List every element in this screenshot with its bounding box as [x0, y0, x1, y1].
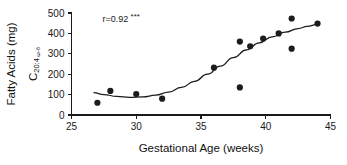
data-point-0-8 [260, 35, 266, 41]
data-point-0-0 [94, 100, 100, 106]
data-point-0-10 [289, 15, 295, 21]
x-axis-title: Gestational Age (weeks) [139, 142, 264, 154]
x-axis-tick-labels: 2530354045 [66, 121, 337, 132]
y-axis-title-compound-letter: C [27, 73, 39, 81]
y-tick-label-400: 400 [48, 28, 65, 39]
data-point-0-6 [237, 84, 243, 90]
y-tick-label-500: 500 [48, 8, 65, 19]
y-axis-title-compound: C20:4ω-6 [27, 47, 41, 81]
x-tick-label-40: 40 [260, 121, 272, 132]
x-tick-label-25: 25 [66, 121, 78, 132]
y-tick-label-100: 100 [48, 89, 65, 100]
data-point-0-12 [314, 21, 320, 27]
data-point-0-1 [107, 88, 113, 94]
x-tick-label-45: 45 [325, 121, 337, 132]
correlation-annotation: r=0.92 *** [103, 12, 140, 24]
data-point-0-3 [159, 96, 165, 102]
y-axis-tick-labels: 0100200300400500 [48, 8, 65, 121]
data-point-0-11 [289, 46, 295, 52]
x-axis-ticks [72, 115, 331, 119]
x-tick-label-30: 30 [131, 121, 143, 132]
y-tick-label-0: 0 [59, 110, 65, 121]
y-axis-title-compound-omega: ω-6 [35, 47, 41, 57]
y-axis-group: 0100200300400500 [48, 8, 72, 121]
data-points-group [94, 15, 320, 105]
data-point-0-2 [133, 91, 139, 97]
x-tick-label-35: 35 [195, 121, 207, 132]
y-axis-title-compound-index: 20:4 [32, 58, 41, 73]
data-point-0-5 [237, 38, 243, 44]
chart-canvas: 0100200300400500 2530354045 r=0.92 *** F… [0, 0, 347, 165]
y-axis-title-group: Fatty Acids (mg) C20:4ω-6 [5, 22, 41, 105]
trend-line-curve [94, 24, 318, 97]
y-tick-label-300: 300 [48, 48, 65, 59]
y-axis-title-main: Fatty Acids (mg) [5, 22, 17, 105]
data-point-0-4 [211, 65, 217, 71]
y-axis-title-subscript-group: C20:4ω-6 [27, 47, 41, 81]
data-point-0-9 [276, 30, 282, 36]
y-axis-ticks [68, 13, 72, 115]
correlation-significance-stars: *** [131, 12, 140, 21]
correlation-annotation-text: r=0.92 [103, 14, 129, 24]
data-point-0-7 [247, 43, 253, 49]
scatter-plot-figure: 0100200300400500 2530354045 r=0.92 *** F… [0, 0, 347, 165]
x-axis-group: 2530354045 [66, 115, 337, 132]
y-tick-label-200: 200 [48, 69, 65, 80]
